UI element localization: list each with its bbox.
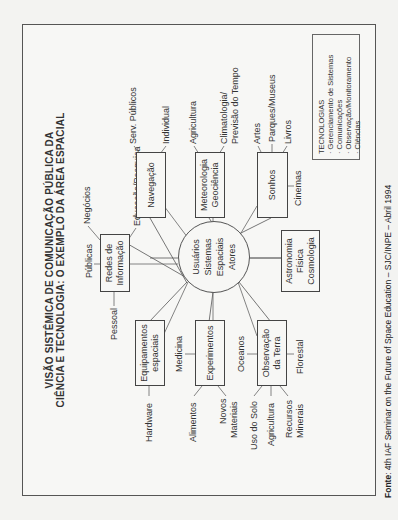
leaf-publicas: Públicas — [84, 244, 95, 278]
legend-heading: TECNOLOGIAS — [317, 40, 326, 154]
leaf-medicina: Medicina — [174, 336, 185, 372]
node-equipamentos-espaciais: Equipamentos espaciais — [135, 320, 165, 386]
node-label: espaciais — [150, 334, 161, 372]
leaf-pessoal: Pessoal — [109, 308, 120, 340]
node-sonhos: Sonhos — [257, 152, 288, 218]
footer-label: Fonte — [383, 475, 393, 498]
leaf-alimentos: Alimentos — [188, 402, 199, 442]
center-line-1: Usuários — [190, 239, 202, 275]
leaf-agricultura-meteo: Agricultura — [188, 101, 199, 144]
node-label: Navegação — [146, 162, 157, 208]
node-label: Geociência — [210, 162, 221, 207]
node-label: Astronomia — [284, 238, 295, 284]
leaf-hardware: Hardware — [144, 403, 155, 442]
node-label: Informação — [115, 240, 126, 285]
leaf-cinemas: Cinemas — [293, 170, 304, 206]
leaf-oceanos: Oceanos — [236, 336, 247, 372]
node-label: da Terra — [272, 337, 283, 370]
leaf-recursos: Recursos — [284, 400, 295, 438]
leaf-materiais: Materiais — [229, 401, 240, 438]
center-node-usuarios: Usuários Sistemas Espaciais Atores — [178, 221, 250, 293]
leaf-climatologia: Climatologia/ — [219, 92, 230, 144]
node-experimentos: Experimentos — [195, 320, 225, 386]
node-navegacao: Navegação — [136, 152, 166, 218]
node-label: Física — [295, 249, 306, 273]
legend-item: · Ciências — [353, 40, 362, 154]
leaf-livros: Livros — [283, 120, 294, 144]
node-meteorologia-geociencia: Meteorologia Geociência — [195, 152, 225, 218]
leaf-artes: Artes — [252, 123, 263, 144]
node-astronomia: Astronomia Física Cosmologia — [281, 230, 320, 292]
node-label: Redes de — [104, 244, 115, 283]
node-label: Observação — [261, 329, 272, 378]
node-observacao-terra: Observação da Terra — [257, 320, 287, 386]
leaf-serv-publicos: Serv. Públicos — [128, 87, 139, 144]
leaf-parques-museus: Parques/Museus — [267, 74, 278, 142]
node-label: Cosmologia — [306, 237, 317, 285]
node-label: Sonhos — [267, 170, 278, 201]
leaf-novos: Novos — [218, 398, 229, 424]
leaf-negocios: Negócios — [82, 186, 93, 224]
leaf-agricultura-obs: Agricultura — [266, 403, 277, 446]
center-line-4: Atores — [226, 244, 238, 270]
node-label: Meteorologia — [199, 159, 210, 211]
node-label: Equipamentos — [139, 324, 150, 382]
center-line-3: Espaciais — [214, 238, 226, 277]
legend-item: · Comunicações — [335, 40, 344, 154]
center-line-2: Sistemas — [202, 239, 214, 276]
source-footer: Fonte: 4th IAF Seminar on the Future of … — [383, 28, 393, 498]
leaf-florestal: Florestal — [295, 339, 306, 374]
node-label: Experimentos — [205, 325, 216, 380]
leaf-minerais: Minerais — [295, 404, 306, 438]
leaf-previsao-tempo: Previsão do Tempo — [230, 67, 241, 144]
leaf-individual: Individual — [161, 106, 172, 144]
legend-item: · Observação/Monitoramento — [344, 40, 353, 154]
legend-tecnologias: TECNOLOGIAS · Gerenciamento de Sistemas … — [312, 34, 360, 160]
footer-text: : 4th IAF Seminar on the Future of Space… — [383, 185, 393, 475]
legend-item: · Gerenciamento de Sistemas — [326, 40, 335, 154]
node-redes-informacao: Redes de Informação — [100, 234, 130, 292]
diagram-stage: VISÃO SISTÊMICA DE COMUNICAÇÃO PÚBLICA D… — [22, 24, 376, 496]
leaf-uso-do-solo: Uso do Solo — [249, 401, 260, 450]
